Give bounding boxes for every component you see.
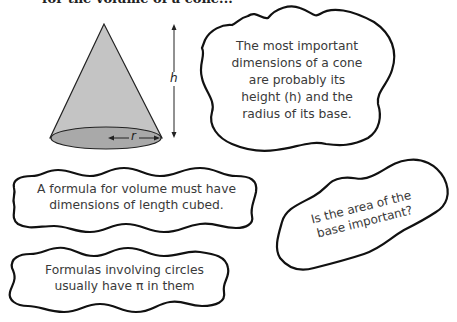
height-label: h: [170, 71, 178, 85]
bubble-1-text: The most important dimensions of a cone …: [222, 38, 372, 123]
cone-body: [50, 24, 162, 138]
bubble-1-line: The most important: [222, 38, 372, 55]
radius-label: r: [131, 129, 136, 143]
height-arrowhead-top: [172, 24, 177, 30]
bubble-1-line: dimensions of a cone: [222, 55, 372, 72]
bubble-4-text: Formulas involving circles usually have …: [22, 262, 227, 294]
bubble-2-line: dimensions of length cubed.: [24, 197, 249, 213]
bubble-1-line: radius of its base.: [222, 106, 372, 123]
bubble-2-text: A formula for volume must have dimension…: [24, 181, 249, 213]
bubble-4-line: usually have π in them: [22, 278, 227, 294]
height-arrowhead-bottom: [172, 132, 177, 138]
bubble-4-line: Formulas involving circles: [22, 262, 227, 278]
bubble-1-line: are probably its: [222, 72, 372, 89]
cone-figure: [50, 24, 180, 149]
bubble-1-line: height (h) and the: [222, 89, 372, 106]
bubble-2-line: A formula for volume must have: [24, 181, 249, 197]
